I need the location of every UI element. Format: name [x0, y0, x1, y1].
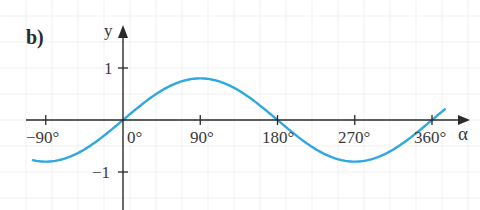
sine-chart: b) y α −90° 0° 90° 180° 270° 360° 1 −1	[0, 0, 480, 210]
x-tick-label-0: 0°	[127, 128, 142, 147]
x-axis-label: α	[458, 123, 468, 144]
y-axis-arrow-icon	[118, 25, 128, 38]
grid	[0, 0, 480, 210]
x-tick-label-neg90: −90°	[26, 128, 59, 147]
x-tick-label-360: 360°	[414, 128, 446, 147]
panel-label: b)	[26, 26, 44, 49]
y-axis-label: y	[104, 21, 113, 40]
x-tick-label-180: 180°	[262, 128, 294, 147]
axes	[26, 25, 470, 210]
x-tick-label-270: 270°	[338, 128, 370, 147]
x-tick-label-90: 90°	[190, 128, 214, 147]
labels: b) y α −90° 0° 90° 180° 270° 360° 1 −1	[26, 21, 468, 182]
y-tick-label-1: 1	[104, 59, 113, 78]
y-tick-label-neg1: −1	[92, 163, 110, 182]
